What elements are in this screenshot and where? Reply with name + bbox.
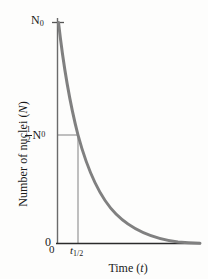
x-tick-label-half-life: t1/2 <box>70 245 83 258</box>
half-n0-base: N <box>33 129 42 141</box>
x-axis-title-prefix: Time ( <box>108 261 140 275</box>
y-tick-label-n0: N0 <box>31 14 44 28</box>
half-n0-subscript: 0 <box>41 131 45 139</box>
y-axis-title-prefix: Number of nuclei ( <box>16 113 30 206</box>
decay-curve <box>59 23 201 244</box>
y-axis-title-suffix: ) <box>16 101 30 105</box>
decay-curve-figure: N0 1 2 N0 0 0 t1/2 Number of nuclei (N) … <box>0 0 208 279</box>
n0-subscript: 0 <box>40 19 44 28</box>
t-half-subscript: 1/2 <box>73 249 83 258</box>
x-tick-label-zero: 0 <box>49 244 55 255</box>
y-axis-title-variable: N <box>16 105 30 113</box>
y-axis-title: Number of nuclei (N) <box>17 74 29 234</box>
x-axis-title: Time (t) <box>58 262 198 274</box>
x-axis-title-suffix: ) <box>144 261 148 275</box>
n0-base: N <box>31 13 40 27</box>
